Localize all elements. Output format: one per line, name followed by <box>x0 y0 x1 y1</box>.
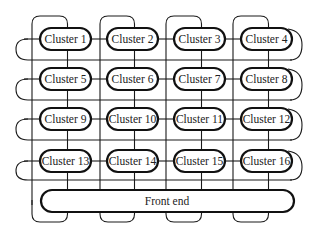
front-end-node: Front end <box>41 190 294 212</box>
cluster-label: Cluster 6 <box>112 73 154 85</box>
cluster-label: Cluster 12 <box>243 113 291 125</box>
row-left-loop-1 <box>16 39 28 60</box>
cluster-label: Cluster 1 <box>45 33 87 45</box>
row-left-loop-4 <box>16 161 28 180</box>
cluster-node-7: Cluster 7 <box>174 68 225 90</box>
cluster-node-8: Cluster 8 <box>241 68 292 90</box>
cluster-label: Cluster 11 <box>176 113 223 125</box>
cluster-nodes: Cluster 1Cluster 2Cluster 3Cluster 4Clus… <box>40 28 294 212</box>
cluster-label: Cluster 4 <box>246 33 288 45</box>
cluster-label: Cluster 15 <box>176 155 224 167</box>
cluster-label: Cluster 14 <box>109 155 157 167</box>
cluster-label: Cluster 9 <box>45 113 87 125</box>
cluster-diagram: Cluster 1Cluster 2Cluster 3Cluster 4Clus… <box>0 0 316 234</box>
front-end-label: Front end <box>145 195 190 207</box>
cluster-node-3: Cluster 3 <box>174 28 225 50</box>
cluster-node-16: Cluster 16 <box>241 150 292 172</box>
cluster-node-4: Cluster 4 <box>241 28 292 50</box>
cluster-node-6: Cluster 6 <box>107 68 158 90</box>
cluster-node-5: Cluster 5 <box>40 68 91 90</box>
cluster-node-13: Cluster 13 <box>40 150 91 172</box>
cluster-label: Cluster 8 <box>246 73 288 85</box>
row-left-loop-2 <box>16 79 28 100</box>
row-left-loop-3 <box>16 119 28 140</box>
cluster-node-14: Cluster 14 <box>107 150 158 172</box>
cluster-node-15: Cluster 15 <box>174 150 225 172</box>
cluster-node-12: Cluster 12 <box>241 108 292 130</box>
cluster-label: Cluster 7 <box>179 73 221 85</box>
cluster-node-1: Cluster 1 <box>40 28 91 50</box>
cluster-label: Cluster 3 <box>179 33 221 45</box>
cluster-node-9: Cluster 9 <box>40 108 91 130</box>
cluster-node-2: Cluster 2 <box>107 28 158 50</box>
cluster-label: Cluster 5 <box>45 73 87 85</box>
cluster-label: Cluster 10 <box>109 113 157 125</box>
cluster-node-11: Cluster 11 <box>174 108 225 130</box>
cluster-label: Cluster 2 <box>112 33 154 45</box>
cluster-label: Cluster 13 <box>42 155 90 167</box>
cluster-node-10: Cluster 10 <box>107 108 158 130</box>
cluster-label: Cluster 16 <box>243 155 291 167</box>
